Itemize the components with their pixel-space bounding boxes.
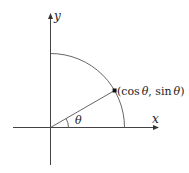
y-axis-label: y bbox=[53, 9, 61, 23]
unit-circle-diagram: y x θ (cosθ, sinθ) bbox=[0, 0, 189, 173]
y-axis-arrow-icon bbox=[48, 13, 53, 19]
radius-line bbox=[51, 91, 115, 128]
angle-arc bbox=[66, 119, 68, 128]
point-marker bbox=[113, 89, 117, 93]
point-label: (cosθ, sinθ) bbox=[117, 85, 185, 98]
angle-label: θ bbox=[75, 114, 82, 127]
x-axis-label: x bbox=[152, 112, 159, 126]
